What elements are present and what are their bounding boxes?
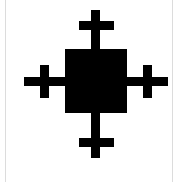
square-with-four-crosses-icon: Black filled square with a plus sign ext… xyxy=(0,0,179,182)
top-cross-bar xyxy=(79,21,114,30)
left-cross-bar xyxy=(40,65,49,98)
right-cross-bar xyxy=(143,65,152,98)
image-canvas: Black filled square with a plus sign ext… xyxy=(0,0,179,182)
center-square xyxy=(65,49,127,113)
bottom-cross-bar xyxy=(79,138,114,147)
